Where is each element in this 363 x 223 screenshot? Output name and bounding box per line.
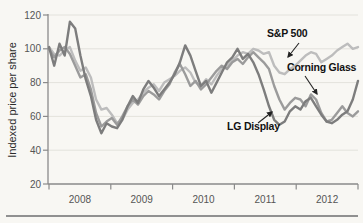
y-tick-label-20: 20 — [30, 179, 42, 190]
series-label-corning-glass: Corning Glass — [287, 61, 356, 73]
y-tick-label-100: 100 — [24, 43, 41, 54]
x-tick-label-2012: 2012 — [316, 194, 339, 205]
series-label-sp500: S&P 500 — [267, 27, 307, 39]
bottom-rule — [6, 215, 358, 217]
x-tick-label-2010: 2010 — [192, 194, 215, 205]
x-tick-label-2008: 2008 — [69, 194, 92, 205]
y-tick-label-120: 120 — [24, 10, 41, 21]
x-tick-label-2009: 2009 — [131, 194, 154, 205]
chart-canvas: 2040608010012020082009201020112012 — [0, 0, 363, 212]
x-tick-label-2011: 2011 — [255, 194, 277, 205]
annotation-arrow-0 — [288, 43, 299, 57]
stock-index-line-chart: 2040608010012020082009201020112012 Index… — [0, 0, 363, 223]
y-tick-label-80: 80 — [30, 77, 42, 88]
y-tick-label-40: 40 — [30, 145, 42, 156]
y-axis-title: Indexed price per share — [6, 42, 18, 158]
y-tick-label-60: 60 — [30, 111, 42, 122]
series-label-lg-display: LG Display — [227, 120, 280, 132]
annotation-arrow-1 — [305, 76, 317, 94]
